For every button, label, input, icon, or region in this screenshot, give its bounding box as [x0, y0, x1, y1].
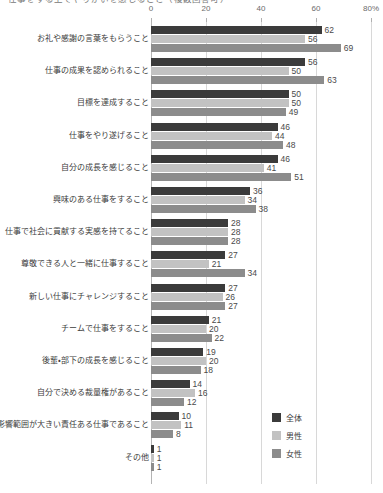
bar-row: 28	[151, 228, 371, 236]
bar-row: 27	[151, 302, 371, 310]
bar[interactable]	[151, 380, 190, 388]
category-label: 仕事で社会に貢献する実感を持てること	[0, 227, 149, 237]
bar[interactable]	[151, 334, 212, 342]
bar[interactable]	[151, 187, 250, 195]
bar-value-label: 16	[198, 388, 207, 398]
bar-row: 50	[151, 99, 371, 107]
bar[interactable]	[151, 389, 195, 397]
x-tick-mark	[371, 18, 372, 22]
bar[interactable]	[151, 173, 291, 181]
bar[interactable]	[151, 219, 228, 227]
bar[interactable]	[151, 445, 154, 453]
bar-value-label: 46	[281, 154, 290, 164]
bar-row: 50	[151, 90, 371, 98]
legend-item-0[interactable]: 全体	[272, 410, 342, 425]
category-label: 仕事をやり遂げること	[0, 131, 149, 141]
bar[interactable]	[151, 357, 206, 365]
bar-row: 28	[151, 237, 371, 245]
bar[interactable]	[151, 228, 228, 236]
bar-row: 62	[151, 26, 371, 34]
category-label: 興味のある仕事をすること	[0, 195, 149, 205]
bar[interactable]	[151, 366, 201, 374]
bar[interactable]	[151, 412, 179, 420]
bar-value-label: 63	[327, 75, 336, 85]
category-label: 後輩・部下の成長を感じること	[0, 356, 149, 366]
bar[interactable]	[151, 251, 225, 259]
bar[interactable]	[151, 141, 283, 149]
bar-value-label: 21	[212, 259, 221, 269]
bar[interactable]	[151, 463, 154, 471]
x-tick-mark	[206, 18, 207, 22]
bar-group: 282828	[151, 219, 371, 246]
bar-value-label: 56	[308, 57, 317, 67]
bar[interactable]	[151, 398, 184, 406]
bar-group: 505049	[151, 90, 371, 117]
legend-label: 男性	[286, 430, 302, 441]
bar-row: 27	[151, 284, 371, 292]
legend-item-2[interactable]: 女性	[272, 446, 342, 461]
bar-row: 27	[151, 251, 371, 259]
bar[interactable]	[151, 67, 289, 75]
bar-value-label: 11	[184, 420, 193, 430]
bar-value-label: 12	[187, 397, 196, 407]
bar-group: 192018	[151, 348, 371, 375]
bar-value-label: 62	[325, 25, 334, 35]
bar-value-label: 49	[289, 107, 298, 117]
bar-value-label: 38	[259, 204, 268, 214]
legend-item-1[interactable]: 男性	[272, 428, 342, 443]
bar-group: 464448	[151, 123, 371, 150]
legend-swatch	[272, 413, 281, 422]
x-tick-label: 80%	[363, 4, 379, 13]
bar-value-label: 56	[308, 34, 317, 44]
category-label: 自分の成長を感じること	[0, 163, 149, 173]
bar[interactable]	[151, 26, 322, 34]
bar[interactable]	[151, 348, 203, 356]
bar[interactable]	[151, 164, 264, 172]
bar-row: 12	[151, 398, 371, 406]
bar[interactable]	[151, 454, 154, 462]
category-label: 仕事の成果を認められること	[0, 66, 149, 76]
bar[interactable]	[151, 155, 278, 163]
bar-row: 20	[151, 325, 371, 333]
bar[interactable]	[151, 269, 245, 277]
bar[interactable]	[151, 108, 286, 116]
bar[interactable]	[151, 44, 341, 52]
bar-row: 50	[151, 67, 371, 75]
bar[interactable]	[151, 123, 278, 131]
bar[interactable]	[151, 35, 305, 43]
bar-value-label: 50	[292, 66, 301, 76]
bar[interactable]	[151, 293, 223, 301]
bar-value-label: 34	[248, 195, 257, 205]
category-label: チームで仕事をすること	[0, 324, 149, 334]
bar[interactable]	[151, 260, 209, 268]
bar-row: 41	[151, 164, 371, 172]
bar[interactable]	[151, 421, 181, 429]
bar-value-label: 69	[344, 43, 353, 53]
bar[interactable]	[151, 132, 272, 140]
bar[interactable]	[151, 316, 209, 324]
bar[interactable]	[151, 302, 225, 310]
bar-value-label: 22	[215, 333, 224, 343]
bar[interactable]	[151, 99, 289, 107]
bar-row: 38	[151, 205, 371, 213]
bar-row: 63	[151, 76, 371, 84]
category-label: 影響範囲が大きい責任ある仕事であること	[0, 420, 149, 430]
bar[interactable]	[151, 430, 173, 438]
bar[interactable]	[151, 237, 228, 245]
bar[interactable]	[151, 90, 289, 98]
category-label: 自分で決める裁量権があること	[0, 388, 149, 398]
bar-value-label: 8	[176, 429, 181, 439]
bar[interactable]	[151, 325, 206, 333]
bar-row: 44	[151, 132, 371, 140]
category-label: 新しい仕事にチャレンジすること	[0, 292, 149, 302]
chart-legend: 全体男性女性	[272, 410, 342, 464]
x-tick-label: 40	[257, 4, 266, 13]
bar[interactable]	[151, 284, 225, 292]
bar[interactable]	[151, 76, 324, 84]
bar[interactable]	[151, 196, 245, 204]
category-label: 目標を達成すること	[0, 98, 149, 108]
bar[interactable]	[151, 58, 305, 66]
bar[interactable]	[151, 205, 256, 213]
bar-row: 22	[151, 334, 371, 342]
legend-swatch	[272, 449, 281, 458]
